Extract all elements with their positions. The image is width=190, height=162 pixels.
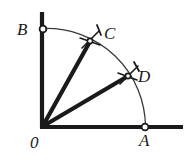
geometry-figure: B C D 0 A	[0, 0, 190, 162]
point-label-D: D	[138, 68, 150, 85]
point-marker-B	[40, 26, 47, 33]
point-marker-C	[87, 38, 92, 43]
point-marker-D	[125, 73, 130, 78]
point-label-B: B	[17, 21, 27, 38]
figure-canvas	[0, 0, 190, 162]
point-label-A: A	[139, 132, 149, 149]
point-marker-A	[142, 124, 149, 131]
point-label-O: 0	[30, 134, 39, 151]
point-label-C: C	[104, 25, 115, 42]
